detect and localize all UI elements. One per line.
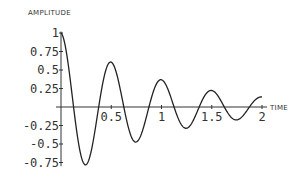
y-tick-label: 0.5 xyxy=(37,63,59,77)
y-tick-label: 0.75 xyxy=(30,45,59,59)
x-tick-label: 0.5 xyxy=(100,110,122,124)
y-tick-label: -0.5 xyxy=(30,137,59,151)
y-tick-label: -0.75 xyxy=(23,156,59,170)
y-axis-ticks: 10.750.50.25-0.25-0.5-0.75 xyxy=(23,26,63,170)
amplitude-curve xyxy=(61,33,262,165)
x-axis-label: TIME xyxy=(269,104,288,112)
axes xyxy=(56,32,267,167)
y-tick-label: -0.25 xyxy=(23,119,59,133)
y-axis-label: AMPLITUDE xyxy=(28,9,71,17)
damped-oscillation-chart: AMPLITUDE 10.750.50.25-0.25-0.5-0.75 0.5… xyxy=(0,0,307,178)
x-tick-label: 2 xyxy=(258,110,265,124)
x-tick-label: 1.5 xyxy=(201,110,223,124)
x-tick-label: 1 xyxy=(158,110,165,124)
y-tick-label: 1 xyxy=(52,26,59,40)
y-tick-label: 0.25 xyxy=(30,82,59,96)
